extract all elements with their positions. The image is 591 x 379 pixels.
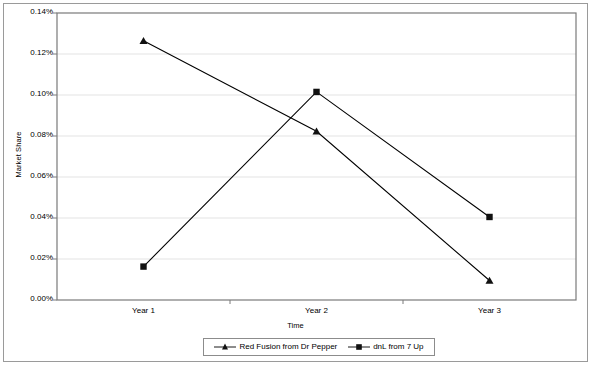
legend-label-red-fusion: Red Fusion from Dr Pepper xyxy=(239,343,337,351)
data-point-1-1 xyxy=(313,89,319,95)
chart-legend: Red Fusion from Dr Pepper dnL from 7 Up xyxy=(203,338,435,356)
data-point-0-1 xyxy=(313,127,321,134)
legend-item-red-fusion: Red Fusion from Dr Pepper xyxy=(214,342,337,352)
x-tick-label-3: Year 3 xyxy=(445,306,535,315)
series-markers xyxy=(140,37,494,284)
x-axis-title: Time xyxy=(0,321,591,330)
y-tick-label: 0.00% xyxy=(5,295,53,303)
y-axis-title: Market Share xyxy=(14,115,23,195)
series-lines xyxy=(144,41,490,281)
legend-label-dnl: dnL from 7 Up xyxy=(373,343,423,351)
y-tick-label: 0.06% xyxy=(5,172,53,180)
y-tick-label: 0.02% xyxy=(5,254,53,262)
y-tick-label: 0.12% xyxy=(5,49,53,57)
x-tick-label-2: Year 2 xyxy=(272,306,362,315)
y-tick-label: 0.08% xyxy=(5,131,53,139)
data-point-0-0 xyxy=(140,37,148,44)
y-tick-label: 0.10% xyxy=(5,90,53,98)
square-marker-icon xyxy=(348,342,370,352)
y-tick-label: 0.14% xyxy=(5,8,53,16)
x-tick-label-1: Year 1 xyxy=(99,306,189,315)
legend-item-dnl: dnL from 7 Up xyxy=(348,342,423,352)
series-line-0 xyxy=(144,41,490,281)
series-line-1 xyxy=(144,92,490,267)
y-tick-label: 0.04% xyxy=(5,213,53,221)
data-point-1-0 xyxy=(140,263,146,269)
data-point-1-2 xyxy=(486,214,492,220)
triangle-marker-icon xyxy=(214,342,236,352)
gridlines xyxy=(57,54,576,259)
plot-area-border xyxy=(57,13,576,300)
chart-container: 0.14%0.12%0.10%0.08%0.06%0.04%0.02%0.00%… xyxy=(0,0,591,379)
